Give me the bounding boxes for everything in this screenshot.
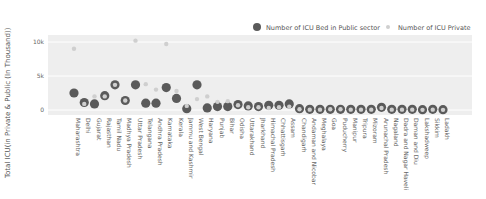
x-tick-label: Meghalaya <box>320 118 328 151</box>
x-tick-label: Maharashtra <box>75 118 82 156</box>
x-tick-label: Rajasthan <box>105 118 113 148</box>
x-tick-label: Ladakh <box>444 118 451 140</box>
public-point[interactable] <box>162 83 171 92</box>
private-point[interactable] <box>338 107 342 111</box>
legend-public-label[interactable]: Number of ICU Bed in Public sector <box>266 24 380 32</box>
x-tick-label: Tripura <box>361 117 369 139</box>
x-tick-label: Haryana <box>207 118 215 144</box>
legend-private-marker-icon <box>386 25 390 29</box>
x-tick-label: Bihar <box>229 118 236 134</box>
x-tick-label: Puducherry <box>341 118 349 153</box>
x-tick-label: Sikkim <box>434 118 441 138</box>
public-point[interactable] <box>172 94 181 103</box>
x-tick-label: Uttarakhand <box>249 118 256 156</box>
x-tick-label: Tamil Nadu <box>116 117 123 151</box>
private-point[interactable] <box>277 105 281 109</box>
legend-private-label[interactable]: Number of ICU Private <box>398 24 470 32</box>
x-tick-label: Andaman and Nicobar <box>311 118 318 185</box>
private-point[interactable] <box>133 38 137 42</box>
private-point[interactable] <box>400 107 404 111</box>
public-point[interactable] <box>223 102 232 111</box>
private-point[interactable] <box>369 107 373 111</box>
x-tick-label: Lakshadweep <box>423 118 431 159</box>
private-point[interactable] <box>390 107 394 111</box>
x-tick-label: Uttar Pradesh <box>137 118 144 159</box>
x-tick-label: Mizoram <box>372 118 379 144</box>
private-point[interactable] <box>113 83 117 87</box>
private-point[interactable] <box>441 108 445 112</box>
private-point[interactable] <box>123 98 127 102</box>
x-tick-label: Andhra Pradesh <box>157 118 164 166</box>
public-point[interactable] <box>90 99 99 108</box>
x-tick-label: Goa <box>331 118 338 130</box>
private-point[interactable] <box>431 107 435 111</box>
x-tick-label: Nagaland <box>392 118 400 147</box>
private-point[interactable] <box>267 106 271 110</box>
private-point[interactable] <box>144 82 148 86</box>
legend[interactable]: Number of ICU Bed in Public sector Numbe… <box>253 23 470 32</box>
x-tick-label: Daman and Diu <box>413 118 420 165</box>
private-point[interactable] <box>349 107 353 111</box>
public-point[interactable] <box>69 88 78 97</box>
private-point[interactable] <box>154 87 158 91</box>
private-point[interactable] <box>359 107 363 111</box>
legend-public-marker-icon <box>253 23 261 31</box>
x-tick-label: Himachal Pradesh <box>270 118 277 172</box>
x-tick-label: Assam <box>290 118 297 138</box>
x-tick-label: Odisha <box>239 118 246 139</box>
x-tick-label: Manipur <box>351 118 359 143</box>
private-point[interactable] <box>236 103 240 107</box>
y-axis-label: Total ICU(in Private & Public (In Thousa… <box>4 27 12 179</box>
x-tick-label: Karnataka <box>167 118 174 149</box>
x-tick-label: Chandigarh <box>300 118 308 153</box>
y-axis-ticks: 05k10k <box>33 38 45 113</box>
x-tick-label: Jharkhand <box>259 117 267 148</box>
x-tick-label: Madhya Pradesh <box>125 118 133 168</box>
public-point[interactable] <box>141 99 150 108</box>
x-tick-label: West Bengal <box>197 118 205 156</box>
private-point[interactable] <box>195 97 199 101</box>
private-point[interactable] <box>420 108 424 112</box>
x-tick-label: Chhattisgarh <box>279 118 287 157</box>
private-point[interactable] <box>215 100 219 104</box>
private-point[interactable] <box>92 94 96 98</box>
private-point[interactable] <box>174 89 178 93</box>
private-point[interactable] <box>246 105 250 109</box>
private-point[interactable] <box>328 107 332 111</box>
y-tick-label: 5k <box>37 72 45 79</box>
private-point[interactable] <box>103 94 107 98</box>
x-axis-ticks: MaharashtraDelhiGujaratRajasthanTamil Na… <box>75 117 451 190</box>
public-point[interactable] <box>203 103 212 112</box>
public-point[interactable] <box>151 99 160 108</box>
private-point[interactable] <box>308 107 312 111</box>
x-tick-label: Jammu and Kashmir <box>187 117 195 179</box>
x-tick-label: Arunachal Pradesh <box>383 118 390 174</box>
private-point[interactable] <box>297 107 301 111</box>
y-tick-label: 10k <box>33 38 45 45</box>
x-tick-label: Gujarat <box>95 118 103 141</box>
x-tick-label: Dadra and Nagar Haveli <box>402 118 410 190</box>
private-point[interactable] <box>72 47 76 51</box>
x-tick-label: Delhi <box>85 118 92 134</box>
private-point[interactable] <box>256 105 260 109</box>
private-point[interactable] <box>226 99 230 103</box>
private-point[interactable] <box>287 104 291 108</box>
public-point[interactable] <box>192 80 201 89</box>
y-tick-label: 0 <box>40 106 44 113</box>
x-tick-label: Kerala <box>178 118 185 137</box>
private-point[interactable] <box>410 107 414 111</box>
private-point[interactable] <box>82 102 86 106</box>
private-point[interactable] <box>164 42 168 46</box>
private-point[interactable] <box>185 104 189 108</box>
x-tick-label: Punjab <box>218 118 226 138</box>
private-point[interactable] <box>205 94 209 98</box>
public-point[interactable] <box>131 80 140 89</box>
private-point[interactable] <box>379 106 383 110</box>
x-tick-label: Telangana <box>146 117 154 149</box>
icu-scatter-chart: 05k10k Total ICU(in Private & Public (In… <box>0 0 486 199</box>
private-point[interactable] <box>318 107 322 111</box>
